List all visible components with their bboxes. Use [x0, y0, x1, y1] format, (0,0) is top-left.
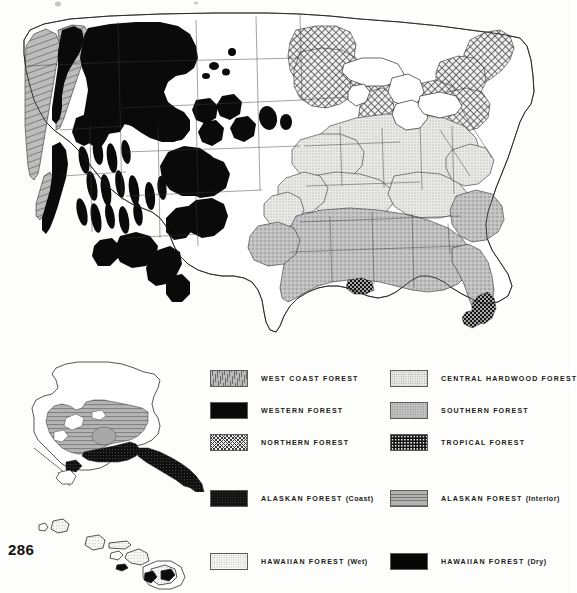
legend-label-text: HAWAIIAN FOREST — [261, 558, 344, 566]
legend-item-west-coast-forest: WEST COAST FOREST — [210, 370, 359, 387]
legend-item-northern-forest: NORTHERN FOREST — [210, 434, 349, 451]
legend-label-west-coast-forest: WEST COAST FOREST — [261, 375, 359, 383]
legend-label-southern-forest: SOUTHERN FOREST — [441, 407, 529, 415]
legend-label-tropical-forest: TROPICAL FOREST — [441, 439, 525, 447]
swatch-central-hardwood-forest — [390, 370, 428, 387]
legend-label-qualifier: (Wet) — [348, 558, 368, 566]
swatch-alaskan-forest-coast — [210, 490, 248, 507]
legend-label-western-forest: WESTERN FOREST — [261, 407, 343, 415]
map-conterminous-united-states — [0, 0, 571, 345]
legend-label-alaskan-forest-interior: ALASKAN FOREST (Interior) — [441, 495, 560, 503]
legend-label-hawaiian-forest-wet: HAWAIIAN FOREST (Wet) — [261, 558, 368, 566]
legend-label-text: ALASKAN FOREST — [261, 495, 343, 503]
legend-label-northern-forest: NORTHERN FOREST — [261, 439, 349, 447]
legend-label-qualifier: (Coast) — [346, 495, 374, 503]
legend-label-hawaiian-forest-dry: HAWAIIAN FOREST (Dry) — [441, 558, 547, 566]
legend-item-hawaiian-forest-dry: HAWAIIAN FOREST (Dry) — [390, 553, 547, 570]
legend-label-text: ALASKAN FOREST — [441, 495, 523, 503]
legend-item-alaskan-forest-interior: ALASKAN FOREST (Interior) — [390, 490, 560, 507]
swatch-hawaiian-forest-wet — [210, 553, 248, 570]
legend-item-tropical-forest: TROPICAL FOREST — [390, 434, 525, 451]
legend-label-qualifier: (Interior) — [526, 495, 560, 503]
swatch-alaskan-forest-interior — [390, 490, 428, 507]
swatch-tropical-forest — [390, 434, 428, 451]
map-legend: WEST COAST FOREST WESTERN FOREST NORTHER… — [0, 360, 571, 593]
legend-item-central-hardwood-forest: CENTRAL HARDWOOD FOREST — [390, 370, 577, 387]
swatch-northern-forest — [210, 434, 248, 451]
legend-item-alaskan-forest-coast: ALASKAN FOREST (Coast) — [210, 490, 374, 507]
swatch-west-coast-forest — [210, 370, 248, 387]
legend-label-central-hardwood-forest: CENTRAL HARDWOOD FOREST — [441, 375, 577, 383]
legend-label-text: HAWAIIAN FOREST — [441, 558, 524, 566]
swatch-southern-forest — [390, 402, 428, 419]
swatch-western-forest — [210, 402, 248, 419]
legend-item-western-forest: WESTERN FOREST — [210, 402, 343, 419]
legend-item-hawaiian-forest-wet: HAWAIIAN FOREST (Wet) — [210, 553, 368, 570]
swatch-hawaiian-forest-dry — [390, 553, 428, 570]
legend-label-alaskan-forest-coast: ALASKAN FOREST (Coast) — [261, 495, 374, 503]
legend-item-southern-forest: SOUTHERN FOREST — [390, 402, 529, 419]
legend-label-qualifier: (Dry) — [528, 558, 547, 566]
